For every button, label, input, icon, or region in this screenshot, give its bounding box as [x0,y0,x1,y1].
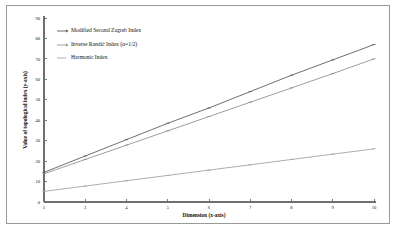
series-line-0 [44,45,374,173]
x-tick-label: 5 [167,205,170,210]
x-tick-label: 3 [84,205,87,210]
x-tick-label: 8 [290,205,293,210]
legend-label-1: Inverse Randić Index (α=1/2) [71,41,137,48]
legend-arrow-icon [66,30,69,33]
y-tick-label: 70 [35,57,40,62]
x-tick-label: 6 [208,205,211,210]
x-tick-label: 10 [372,205,377,210]
x-tick-label: 2 [43,205,46,210]
legend-label-0: Modified Second Zagreb Index [71,27,141,33]
plot-area: 0102030405060708090 2345678910 Modified … [0,0,397,230]
y-tick-label: 0 [38,200,41,205]
y-tick-label: 10 [35,179,40,184]
y-tick-group: 0102030405060708090 [35,16,47,205]
y-tick-label: 40 [35,118,40,123]
legend-label-2: Harmonic Index [71,54,108,60]
line-chart: 0102030405060708090 2345678910 Modified … [0,0,397,230]
y-tick-label: 50 [35,97,40,102]
y-tick-label: 80 [35,36,40,41]
y-tick-label: 60 [35,77,40,82]
legend-arrow-icon [66,44,69,47]
y-tick-label: 30 [35,138,40,143]
x-tick-label: 4 [125,205,128,210]
series-group [42,45,375,192]
x-tick-label: 7 [249,205,252,210]
y-tick-label: 20 [35,159,40,164]
x-tick-group: 2345678910 [43,199,377,210]
y-tick-label: 90 [35,16,40,21]
legend-group: Modified Second Zagreb IndexInverse Rand… [57,27,141,60]
y-axis-title: Value of topological index (y-axis) [22,71,29,149]
x-axis-title: Dimension (x-axis) [183,212,226,219]
x-tick-label: 9 [332,205,335,210]
chart-figure: 0102030405060708090 2345678910 Modified … [0,0,397,230]
